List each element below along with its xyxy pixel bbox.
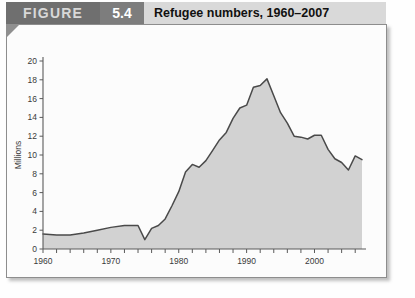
y-tick-label: 20 <box>28 56 38 66</box>
y-tick-label: 14 <box>28 112 38 122</box>
x-tick-label: 1960 <box>34 256 53 266</box>
figure-container: FIGURE 5.4 Refugee numbers, 1960–2007 02… <box>0 0 415 298</box>
y-tick-label: 2 <box>32 225 37 235</box>
y-tick-label: 18 <box>28 75 38 85</box>
chart-panel: 02468101214161820 19601970198019902000 M… <box>6 24 387 278</box>
figure-title: Refugee numbers, 1960–2007 <box>144 2 386 24</box>
y-tick-label: 16 <box>28 94 38 104</box>
y-tick-label: 12 <box>28 131 38 141</box>
y-tick-label: 10 <box>28 150 38 160</box>
refugee-area-chart: 02468101214161820 19601970198019902000 M… <box>7 25 388 279</box>
y-axis-title-group: Millions <box>13 141 23 169</box>
x-tick-label-group: 19601970198019902000 <box>34 256 325 266</box>
x-tick-label: 1970 <box>101 256 120 266</box>
chart-area: 02468101214161820 19601970198019902000 M… <box>7 25 388 279</box>
x-tick-label: 1980 <box>169 256 188 266</box>
y-tick-label: 4 <box>32 206 37 216</box>
x-tick-label: 2000 <box>305 256 324 266</box>
figure-header: FIGURE 5.4 Refugee numbers, 1960–2007 <box>6 2 386 24</box>
x-tick-label: 1990 <box>237 256 256 266</box>
y-tick-label: 8 <box>32 169 37 179</box>
y-tick-label: 0 <box>32 244 37 254</box>
figure-number: 5.4 <box>100 2 144 24</box>
y-axis-title: Millions <box>13 141 23 169</box>
y-tick-label-group: 02468101214161820 <box>28 56 38 254</box>
y-tick-label: 6 <box>32 188 37 198</box>
figure-label: FIGURE <box>6 2 100 24</box>
